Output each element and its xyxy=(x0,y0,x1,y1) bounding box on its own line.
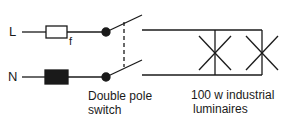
neutral-link xyxy=(45,70,68,84)
switch-caption-line2: switch xyxy=(88,103,121,117)
neutral-terminal-label: N xyxy=(8,70,17,84)
fuse-label: f xyxy=(69,34,72,48)
luminaire-caption-line2: luminaires xyxy=(193,102,248,116)
switch-blade-neutral xyxy=(106,60,142,77)
fuse xyxy=(46,26,67,38)
luminaire-caption-line1: 100 w industrial xyxy=(191,88,274,102)
switch-caption-line1: Double pole xyxy=(88,89,152,103)
live-terminal-label: L xyxy=(9,25,16,39)
